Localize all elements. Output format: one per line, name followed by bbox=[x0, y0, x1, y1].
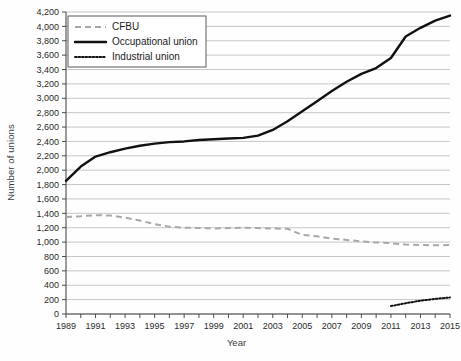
y-tick-label: 2,200 bbox=[36, 151, 59, 161]
x-tick-label: 1989 bbox=[56, 321, 76, 331]
y-tick-label: 4,200 bbox=[36, 7, 59, 17]
series-line-industrial-union bbox=[391, 297, 450, 306]
y-tick-label: 1,000 bbox=[36, 237, 59, 247]
y-tick-label: 200 bbox=[44, 295, 59, 305]
x-tick-label: 2015 bbox=[440, 321, 460, 331]
y-axis: 02004006008001,0001,2001,4001,6001,8002,… bbox=[36, 7, 66, 319]
x-tick-label: 1997 bbox=[174, 321, 194, 331]
x-tick-label: 1995 bbox=[145, 321, 165, 331]
x-tick-label: 2013 bbox=[410, 321, 430, 331]
y-tick-label: 3,600 bbox=[36, 50, 59, 60]
x-tick-label: 2001 bbox=[233, 321, 253, 331]
y-tick-label: 3,200 bbox=[36, 79, 59, 89]
y-tick-label: 3,000 bbox=[36, 93, 59, 103]
y-tick-label: 800 bbox=[44, 252, 59, 262]
x-tick-label: 2003 bbox=[263, 321, 283, 331]
y-tick-label: 0 bbox=[54, 309, 59, 319]
x-tick-label: 1999 bbox=[204, 321, 224, 331]
x-axis: 1989199119931995199719992001200320052007… bbox=[56, 314, 460, 331]
x-tick-label: 2005 bbox=[292, 321, 312, 331]
y-tick-label: 4,000 bbox=[36, 22, 59, 32]
legend-label-3: Industrial union bbox=[112, 51, 180, 62]
x-tick-label: 1991 bbox=[86, 321, 106, 331]
y-tick-label: 3,400 bbox=[36, 65, 59, 75]
legend-label-2: Occupational union bbox=[112, 36, 198, 47]
y-tick-label: 1,400 bbox=[36, 209, 59, 219]
legend: CFBUOccupational unionIndustrial union bbox=[68, 16, 206, 67]
x-axis-title-text: Year bbox=[227, 337, 246, 348]
series-line-cfbu bbox=[66, 215, 450, 245]
x-tick-label: 2009 bbox=[351, 321, 371, 331]
y-tick-label: 600 bbox=[44, 266, 59, 276]
chart-plot-area: 02004006008001,0001,2001,4001,6001,8002,… bbox=[0, 0, 461, 361]
legend-label-1: CFBU bbox=[112, 21, 139, 32]
y-tick-label: 2,600 bbox=[36, 122, 59, 132]
y-tick-label: 2,000 bbox=[36, 165, 59, 175]
y-tick-label: 400 bbox=[44, 280, 59, 290]
x-axis-title: Year bbox=[0, 337, 461, 348]
x-tick-label: 1993 bbox=[115, 321, 135, 331]
x-tick-label: 2007 bbox=[322, 321, 342, 331]
y-tick-label: 2,800 bbox=[36, 108, 59, 118]
x-tick-label: 2011 bbox=[381, 321, 400, 331]
y-tick-label: 1,800 bbox=[36, 180, 59, 190]
y-tick-label: 1,200 bbox=[36, 223, 59, 233]
y-tick-label: 3,800 bbox=[36, 36, 59, 46]
y-tick-label: 1,600 bbox=[36, 194, 59, 204]
y-tick-label: 2,400 bbox=[36, 137, 59, 147]
chart-figure: Number of unions 02004006008001,0001,200… bbox=[0, 0, 461, 361]
